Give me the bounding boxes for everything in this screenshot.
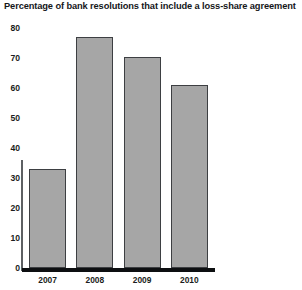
bar-chart: Percentage of bank resolutions that incl… — [0, 0, 302, 290]
plot-area: 01020304050607080 2007200820092010 — [0, 0, 302, 290]
bar-2008 — [76, 37, 113, 268]
x-axis-tick-label-2008: 2008 — [86, 275, 105, 285]
x-axis-tick-label-2009: 2009 — [133, 275, 152, 285]
bars-layer — [0, 0, 302, 290]
bar-2007 — [29, 169, 66, 268]
x-axis-tick-label-2010: 2010 — [180, 275, 199, 285]
bar-2009 — [124, 57, 161, 269]
bar-2010 — [171, 85, 208, 268]
x-axis-tick-label-2007: 2007 — [38, 275, 57, 285]
